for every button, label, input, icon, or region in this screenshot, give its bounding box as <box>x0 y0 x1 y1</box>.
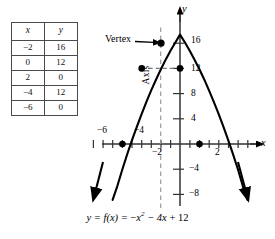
table-row: 2 0 <box>12 70 78 85</box>
cell-x: −4 <box>12 85 45 100</box>
cell-y: 12 <box>44 55 77 70</box>
cell-y: 16 <box>44 40 77 55</box>
cell-x: −2 <box>12 40 45 55</box>
axis-of-symmetry-label: Axis <box>141 54 153 96</box>
equation-term3: + 12 <box>167 212 189 223</box>
equation-lhs: y = f(x) = <box>87 212 131 223</box>
y-tick-label-16: 16 <box>191 36 201 46</box>
equation-term2: − 4x <box>145 212 167 223</box>
point-y-intercept-12 <box>177 65 184 72</box>
table-row: 0 12 <box>12 55 78 70</box>
table-header-y: y <box>44 23 77 41</box>
x-tick-label-2: 2 <box>215 148 220 158</box>
y-tick-label-8: 8 <box>191 89 196 99</box>
y-axis-label: y <box>182 4 187 15</box>
cell-y: 0 <box>44 100 77 115</box>
cell-x: 2 <box>12 70 45 85</box>
cell-x: 0 <box>12 55 45 70</box>
point-vertex <box>157 40 164 47</box>
x-axis <box>93 140 256 148</box>
y-tick-label-minus4: −4 <box>189 164 199 174</box>
point-x-intercept-2 <box>196 141 203 148</box>
cell-y: 0 <box>44 70 77 85</box>
equation-caption: y = f(x) = −x2 − 4x + 12 <box>0 210 275 223</box>
table-header-row: x y <box>12 23 78 41</box>
table-row: −4 12 <box>12 85 78 100</box>
cell-y: 12 <box>44 85 77 100</box>
x-tick-label-minus4: −4 <box>134 126 144 136</box>
cell-x: −6 <box>12 100 45 115</box>
xy-value-table: x y −2 16 0 12 2 0 −4 12 −6 0 <box>11 22 78 116</box>
y-tick-label-12: 12 <box>191 64 201 74</box>
x-axis-label: x <box>261 138 266 149</box>
y-tick-label-4: 4 <box>191 114 196 124</box>
y-tick-label-minus8: −8 <box>189 189 199 199</box>
parabola-figure: x y −2 16 0 12 2 0 −4 12 −6 0 <box>0 0 275 239</box>
vertex-annotation-label: Vertex <box>105 34 131 44</box>
table-header-x: x <box>12 23 45 41</box>
x-tick-label-minus2: −2 <box>152 148 162 158</box>
table-row: −2 16 <box>12 40 78 55</box>
table-row: −6 0 <box>12 100 78 115</box>
point-x-intercept-neg6 <box>119 141 126 148</box>
curve-arrow-left <box>96 162 103 190</box>
vertex-pointer-arrow <box>135 42 154 43</box>
x-tick-label-minus6: −6 <box>97 126 107 136</box>
